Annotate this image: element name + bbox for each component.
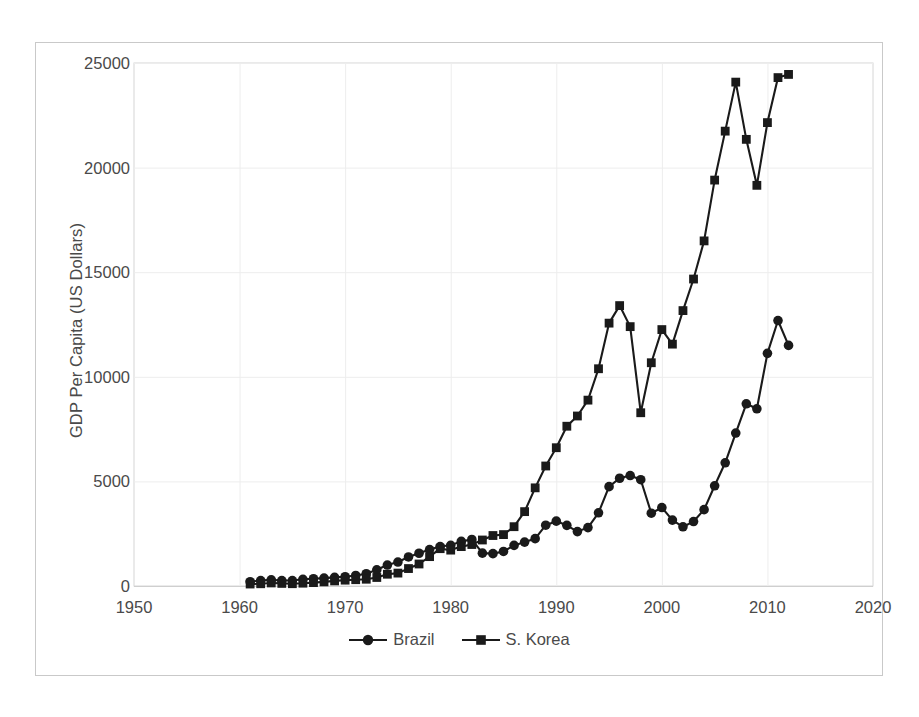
data-point-marker <box>583 523 593 533</box>
chart-frame: GDP Per Capita (US Dollars) 050001000015… <box>35 42 883 676</box>
data-point-marker <box>625 471 635 481</box>
data-point-marker <box>689 517 699 527</box>
data-point-marker <box>752 181 761 190</box>
data-point-marker <box>742 399 752 409</box>
data-point-marker <box>436 544 445 553</box>
data-point-marker <box>288 579 297 588</box>
data-point-marker <box>341 576 350 585</box>
data-point-marker <box>467 540 476 549</box>
data-point-marker <box>668 340 677 349</box>
data-point-marker <box>657 325 666 334</box>
data-point-marker <box>531 483 540 492</box>
data-point-marker <box>383 560 393 570</box>
data-point-marker <box>584 396 593 405</box>
data-point-marker <box>721 127 730 136</box>
data-point-marker <box>573 412 582 421</box>
data-point-marker <box>604 482 614 492</box>
data-point-marker <box>763 349 773 359</box>
data-point-marker <box>636 475 646 485</box>
legend-square-marker-icon <box>461 632 501 648</box>
data-point-marker <box>752 404 762 414</box>
data-point-marker <box>520 507 529 516</box>
data-point-marker <box>710 176 719 185</box>
data-point-marker <box>689 275 698 284</box>
data-point-marker <box>657 503 667 513</box>
data-point-marker <box>731 428 741 438</box>
data-point-marker <box>383 570 392 579</box>
data-point-marker <box>299 579 308 588</box>
data-point-marker <box>499 530 508 539</box>
plot-canvas <box>36 43 884 677</box>
legend-label: Brazil <box>393 630 434 649</box>
data-point-marker <box>605 319 614 328</box>
data-point-marker <box>256 579 265 588</box>
data-point-marker <box>309 578 318 587</box>
data-point-marker <box>552 443 561 452</box>
data-point-marker <box>404 564 413 573</box>
data-point-marker <box>678 522 688 532</box>
data-point-marker <box>457 542 466 551</box>
data-point-marker <box>510 522 519 531</box>
data-point-marker <box>699 505 709 515</box>
data-point-marker <box>246 580 255 589</box>
chart-area: GDP Per Capita (US Dollars) 050001000015… <box>36 43 882 675</box>
data-point-marker <box>520 537 530 547</box>
data-point-marker <box>372 573 381 582</box>
data-point-marker <box>700 237 709 246</box>
data-point-marker <box>594 508 604 518</box>
legend-entry-brazil[interactable]: Brazil <box>348 630 434 649</box>
data-point-marker <box>488 549 498 559</box>
data-point-marker <box>773 316 783 326</box>
data-point-marker <box>647 358 656 367</box>
data-point-marker <box>530 534 540 544</box>
data-point-marker <box>615 473 625 483</box>
data-point-marker <box>489 531 498 540</box>
data-point-marker <box>784 341 794 351</box>
data-point-marker <box>626 322 635 331</box>
data-point-marker <box>425 552 434 561</box>
data-point-marker <box>720 458 730 468</box>
data-point-marker <box>763 118 772 127</box>
data-point-marker <box>562 521 572 531</box>
data-point-marker <box>351 575 360 584</box>
data-point-marker <box>615 301 624 310</box>
data-point-marker <box>647 508 657 518</box>
chart-legend: BrazilS. Korea <box>36 630 882 649</box>
data-point-marker <box>562 422 571 431</box>
plot-border <box>134 63 873 586</box>
data-point-marker <box>742 135 751 144</box>
legend-circle-marker-icon <box>348 632 388 648</box>
data-point-marker <box>277 579 286 588</box>
legend-label: S. Korea <box>506 630 570 649</box>
data-point-marker <box>394 569 403 578</box>
data-point-marker <box>541 520 551 530</box>
legend-entry-s-korea[interactable]: S. Korea <box>461 630 570 649</box>
data-point-marker <box>320 577 329 586</box>
data-point-marker <box>636 408 645 417</box>
data-point-marker <box>393 557 403 567</box>
data-point-marker <box>267 579 276 588</box>
data-point-marker <box>784 70 793 79</box>
data-point-marker <box>594 364 603 373</box>
data-point-marker <box>362 575 371 584</box>
data-point-marker <box>415 560 424 569</box>
data-point-marker <box>774 73 783 82</box>
data-point-marker <box>478 548 488 558</box>
data-point-marker <box>679 306 688 315</box>
data-point-marker <box>404 552 414 562</box>
data-point-marker <box>509 541 519 551</box>
data-point-marker <box>731 78 740 87</box>
data-point-marker <box>573 527 583 537</box>
data-point-marker <box>414 548 424 558</box>
data-point-marker <box>710 481 720 491</box>
data-point-marker <box>499 547 509 557</box>
data-point-marker <box>541 462 550 471</box>
data-point-marker <box>478 536 487 545</box>
data-point-marker <box>446 546 455 555</box>
data-point-marker <box>551 516 561 526</box>
data-point-marker <box>668 515 678 525</box>
data-point-marker <box>330 577 339 586</box>
